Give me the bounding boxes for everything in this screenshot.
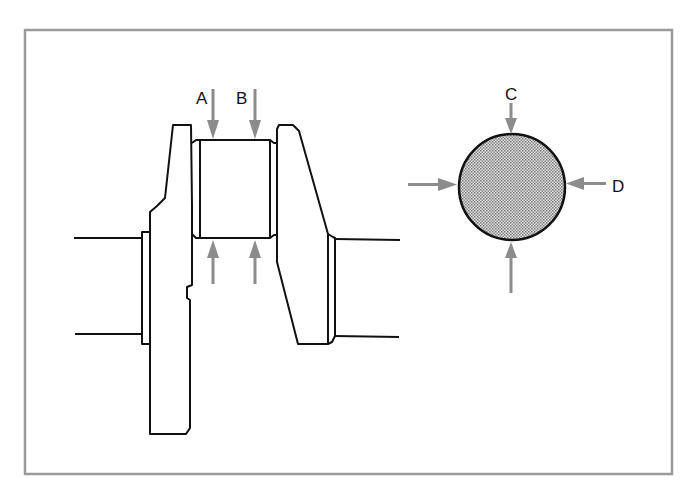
arrow-d-left-icon [438,178,457,191]
right-flange [328,234,335,344]
figure-frame [25,30,672,474]
label-c: C [505,85,517,104]
right-shaft-bottom-line [335,336,399,337]
crank-pin [200,140,270,238]
pin-measurement-arrows [207,89,261,284]
journal-cross-section [459,134,565,240]
arrow-d-right-icon [566,177,584,190]
arrow-c-bottom-icon [505,242,517,258]
arrow-a-bottom-icon [207,240,219,258]
crankshaft-side-view [74,125,400,434]
label-b: B [236,89,247,108]
arrow-c-top-icon [505,118,517,134]
arrow-b-top-icon [249,120,261,139]
label-a: A [196,89,208,108]
left-flange [142,232,150,344]
right-pin-fillet [270,140,277,238]
arrow-b-bottom-icon [249,240,261,258]
label-d: D [612,177,624,196]
crankshaft-measurement-diagram: A B C D [0,0,694,493]
arrow-a-top-icon [207,120,219,139]
left-crank-web [150,125,192,434]
right-shaft-top-line [335,239,400,240]
right-crank-web [277,125,328,344]
left-pin-fillet [192,140,200,238]
